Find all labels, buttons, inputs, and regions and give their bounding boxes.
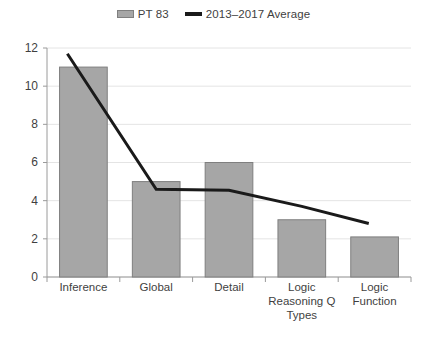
chart-container: PT 83 2013–2017 Average 12 10 8 6 4 2 0 … (0, 0, 427, 345)
bar (60, 67, 108, 277)
bar (278, 220, 326, 277)
x-label-detail: Detail (193, 280, 266, 322)
bar-series-pt-83 (60, 67, 399, 277)
x-label-global: Global (120, 280, 193, 322)
bar (351, 237, 399, 277)
x-axis-labels: Inference Global Detail Logic Reasoning … (47, 280, 411, 322)
x-label-logic-function: Logic Function (338, 280, 411, 322)
x-label-inference: Inference (47, 280, 120, 322)
bar (132, 182, 180, 277)
bar (205, 163, 253, 278)
x-label-logic-reasoning-q-types: Logic Reasoning Q Types (265, 280, 338, 322)
